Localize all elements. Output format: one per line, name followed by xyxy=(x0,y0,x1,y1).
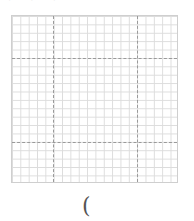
major-grid-line-horizontal-2 xyxy=(12,142,177,143)
major-grid-line-horizontal-1 xyxy=(12,58,177,59)
answer-bracket: ( xyxy=(82,193,91,218)
faint-header-marks: · · · xyxy=(8,0,64,5)
writing-grid xyxy=(11,15,178,183)
major-grid-line-vertical-2 xyxy=(137,16,138,182)
major-grid-line-vertical-1 xyxy=(53,16,54,182)
